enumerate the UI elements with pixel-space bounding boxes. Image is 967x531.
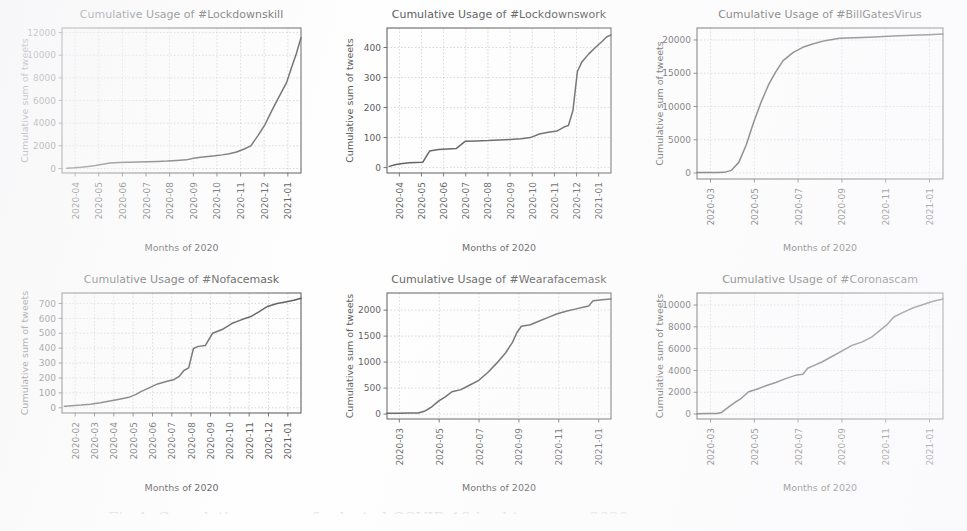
chart-svg-lockdownswork: 2020-042020-052020-062020-072020-082020-… <box>325 0 635 265</box>
chart-svg-billgatesvirus: 2020-032020-052020-072020-092020-112021-… <box>635 0 967 265</box>
y-tick-label: 20000 <box>662 35 691 45</box>
x-tick-label: 2021-01 <box>283 182 293 220</box>
plot-frame <box>387 293 611 419</box>
y-tick-label: 15000 <box>662 68 691 78</box>
x-tick-label: 2021-01 <box>283 422 293 460</box>
y-tick-label: 12000 <box>27 28 56 38</box>
x-tick-label: 2020-03 <box>706 188 716 226</box>
data-series-line <box>389 35 611 167</box>
x-tick-label: 2020-05 <box>435 428 445 466</box>
chart-panel-coronascam[interactable]: 2020-032020-052020-072020-092020-112021-… <box>635 265 967 505</box>
y-tick-label: 8000 <box>33 73 56 83</box>
y-tick-label: 500 <box>39 328 56 338</box>
y-axis-label: Cumulative sum of tweets <box>344 38 355 163</box>
x-tick-label: 2020-07 <box>794 428 804 466</box>
y-tick-label: 200 <box>39 373 56 383</box>
chart-title: Cumulative Usage of #Coronascam <box>722 273 918 286</box>
x-tick-label: 2020-06 <box>118 182 128 220</box>
y-tick-label: 6000 <box>33 96 56 106</box>
x-axis-label: Months of 2020 <box>144 482 218 493</box>
chart-panel-lockdownskill[interactable]: 2020-042020-052020-062020-072020-082020-… <box>0 0 325 265</box>
y-tick-label: 600 <box>39 314 56 324</box>
x-tick-label: 2020-07 <box>461 182 471 220</box>
x-tick-label: 2020-07 <box>794 188 804 226</box>
chart-svg-nofacemask: 2020-022020-032020-042020-052020-062020-… <box>0 265 325 505</box>
chart-svg-coronascam: 2020-032020-052020-072020-092020-112021-… <box>635 265 967 505</box>
x-tick-label: 2020-11 <box>236 182 246 220</box>
y-tick-label: 100 <box>364 133 381 143</box>
y-tick-label: 8000 <box>668 322 691 332</box>
chart-panel-nofacemask[interactable]: 2020-022020-032020-042020-052020-062020-… <box>0 265 325 505</box>
x-tick-label: 2020-07 <box>142 182 152 220</box>
x-axis-label: Months of 2020 <box>462 242 536 253</box>
y-tick-label: 1000 <box>358 357 381 367</box>
x-axis-label: Months of 2020 <box>783 482 857 493</box>
data-series-line <box>697 34 943 172</box>
x-tick-label: 2021-01 <box>925 188 935 226</box>
chart-title: Cumulative Usage of #BillGatesVirus <box>718 8 922 21</box>
x-tick-label: 2020-12 <box>260 182 270 220</box>
x-tick-label: 2020-05 <box>129 422 139 460</box>
y-tick-label: 100 <box>39 388 56 398</box>
x-tick-label: 2020-03 <box>395 428 405 466</box>
y-tick-label: 500 <box>364 383 381 393</box>
x-tick-label: 2020-11 <box>245 422 255 460</box>
plot-frame <box>387 28 611 173</box>
x-tick-label: 2020-05 <box>94 182 104 220</box>
chart-title: Cumulative Usage of #Lockdownswork <box>392 8 607 21</box>
y-tick-label: 300 <box>364 73 381 83</box>
chart-title: Cumulative Usage of #Lockdownskill <box>80 8 283 21</box>
chart-title: Cumulative Usage of #Nofacemask <box>84 273 280 286</box>
chart-panel-wearafacemask[interactable]: 2020-032020-052020-072020-092020-112021-… <box>325 265 635 505</box>
x-tick-label: 2021-01 <box>594 428 604 466</box>
y-tick-label: 10000 <box>27 50 56 60</box>
x-tick-label: 2020-11 <box>881 188 891 226</box>
y-tick-label: 0 <box>685 168 691 178</box>
y-tick-label: 0 <box>50 164 56 174</box>
x-tick-label: 2020-07 <box>167 422 177 460</box>
y-tick-label: 200 <box>364 103 381 113</box>
y-tick-label: 0 <box>50 403 56 413</box>
y-tick-label: 0 <box>685 409 691 419</box>
chart-svg-lockdownskill: 2020-042020-052020-062020-072020-082020-… <box>0 0 325 265</box>
y-tick-label: 2000 <box>33 141 56 151</box>
x-tick-label: 2021-01 <box>925 428 935 466</box>
chart-panel-lockdownswork[interactable]: 2020-042020-052020-062020-072020-082020-… <box>325 0 635 265</box>
x-tick-label: 2020-12 <box>264 422 274 460</box>
chart-panel-billgatesvirus[interactable]: 2020-032020-052020-072020-092020-112021-… <box>635 0 967 265</box>
x-tick-label: 2020-02 <box>71 422 81 460</box>
y-axis-label: Cumulative sum of tweets <box>654 294 665 419</box>
x-tick-label: 2020-11 <box>550 182 560 220</box>
y-tick-label: 0 <box>375 409 381 419</box>
x-tick-label: 2020-07 <box>475 428 485 466</box>
x-axis-label: Months of 2020 <box>144 242 218 253</box>
figure-caption: Fig 1. Cumulative usage of selected COVI… <box>108 509 629 527</box>
data-series-line <box>64 298 301 406</box>
y-tick-label: 400 <box>364 43 381 53</box>
y-tick-label: 10000 <box>662 102 691 112</box>
x-tick-label: 2020-05 <box>417 182 427 220</box>
x-tick-label: 2020-10 <box>212 182 222 220</box>
y-tick-label: 5000 <box>668 135 691 145</box>
x-tick-label: 2020-03 <box>706 428 716 466</box>
x-tick-label: 2020-09 <box>837 428 847 466</box>
x-tick-label: 2020-05 <box>750 188 760 226</box>
y-axis-label: Cumulative sum of tweets <box>19 291 30 416</box>
x-tick-label: 2020-05 <box>750 428 760 466</box>
x-tick-label: 2020-09 <box>506 182 516 220</box>
chart-svg-wearafacemask: 2020-032020-052020-072020-092020-112021-… <box>325 265 635 505</box>
x-tick-label: 2020-03 <box>90 422 100 460</box>
y-axis-label: Cumulative sum of tweets <box>654 41 665 166</box>
x-tick-label: 2020-12 <box>572 182 582 220</box>
y-tick-label: 300 <box>39 358 56 368</box>
y-tick-label: 10000 <box>662 300 691 310</box>
y-tick-label: 0 <box>375 163 381 173</box>
data-series-line <box>697 299 943 414</box>
y-axis-label: Cumulative sum of tweets <box>344 294 355 419</box>
x-tick-label: 2020-06 <box>439 182 449 220</box>
y-tick-label: 1500 <box>358 331 381 341</box>
x-tick-label: 2020-11 <box>881 428 891 466</box>
x-tick-label: 2020-06 <box>148 422 158 460</box>
plot-frame <box>697 293 943 419</box>
x-tick-label: 2020-08 <box>187 422 197 460</box>
